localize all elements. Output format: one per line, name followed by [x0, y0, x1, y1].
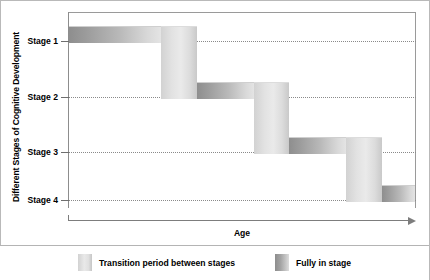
- y-tick-label-stage-2: Stage 2: [27, 92, 58, 102]
- bar-transition-stage-3-to-4: [346, 137, 382, 202]
- legend-item-fully-in-stage: Fully in stage: [275, 254, 351, 271]
- legend-item-transition: Transition period between stages: [78, 254, 235, 271]
- x-axis-arrow-icon: [408, 217, 416, 225]
- legend-label-transition: Transition period between stages: [99, 258, 235, 268]
- y-tick-stage-1: [61, 41, 69, 42]
- bar-transition-stage-2-to-3: [254, 82, 289, 154]
- chart-legend: Transition period between stages Fully i…: [0, 245, 429, 280]
- y-tick-stage-4: [61, 200, 69, 201]
- y-tick-label-stage-3: Stage 3: [27, 147, 58, 157]
- y-tick-stage-2: [61, 97, 69, 98]
- x-axis: [68, 215, 416, 227]
- y-tick-label-stage-1: Stage 1: [27, 36, 58, 46]
- bar-fully-in-stage-4: [382, 185, 415, 202]
- x-axis-title: Age: [68, 228, 416, 238]
- x-axis-line: [68, 220, 408, 221]
- plot-top-border: [68, 12, 416, 13]
- y-tick-label-stage-4: Stage 4: [27, 195, 58, 205]
- y-tick-stage-3: [61, 152, 69, 153]
- bar-fully-in-stage-3: [289, 137, 346, 154]
- legend-swatch-fully-in-stage-icon: [275, 254, 289, 271]
- legend-label-fully-in-stage: Fully in stage: [296, 258, 351, 268]
- y-axis-title: Different Stages of Cognitive Developmen…: [11, 7, 21, 227]
- bar-fully-in-stage-2: [197, 82, 254, 99]
- bar-transition-stage-1-to-2: [161, 26, 197, 99]
- bar-fully-in-stage-1: [69, 26, 161, 43]
- legend-swatch-transition-icon: [78, 254, 92, 271]
- plot-area: Stage 1 Stage 2 Stage 3 Stage 4: [68, 12, 416, 208]
